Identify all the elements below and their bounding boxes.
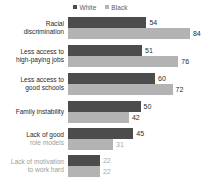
category-label-line: good schools [0,84,64,92]
category-label: Less access togood schools [0,76,64,92]
bar-row[interactable]: 22 [68,166,111,177]
bar-group: Family instability5042 [0,101,201,123]
bar-row[interactable]: 45 [68,128,144,139]
bar-value-label: 50 [144,101,152,112]
bar-value-label: 76 [181,56,189,67]
bar-row[interactable]: 84 [68,28,201,39]
bar-row[interactable]: 72 [68,84,183,95]
bar-value-label: 51 [145,45,153,56]
grouped-bar-chart: WhiteBlack Racialdiscrimination5484Less … [0,0,201,183]
category-label: Family instability [0,108,64,116]
bar-white[interactable] [68,128,133,139]
bar-value-label: 22 [103,166,111,177]
bar-black[interactable] [68,139,113,150]
bar-group: Less access togood schools6072 [0,73,201,95]
bar-value-label: 84 [193,28,201,39]
bar-value-label: 60 [158,73,166,84]
bar-black[interactable] [68,28,190,39]
category-label-line: high-paying jobs [0,56,64,64]
square-marker-icon [105,5,109,9]
category-label-line: to work hard [0,166,64,174]
category-label-line: role models [0,139,64,147]
square-marker-icon [73,5,77,9]
bar-group: Racialdiscrimination5484 [0,17,201,39]
legend-label: Black [111,4,127,11]
bar-white[interactable] [68,155,100,166]
category-label-line: Racial [0,20,64,28]
bar-white[interactable] [68,73,155,84]
bar-value-label: 45 [136,128,144,139]
chart-plot-area: Racialdiscrimination5484Less access tohi… [0,14,201,183]
bar-value-label: 42 [132,112,140,123]
bar-value-label: 31 [116,139,124,150]
category-label: Less access tohigh-paying jobs [0,48,64,64]
bar-row[interactable]: 50 [68,101,151,112]
bar-row[interactable]: 60 [68,73,166,84]
bar-value-label: 72 [176,84,184,95]
chart-legend: WhiteBlack [0,2,201,12]
bar-black[interactable] [68,84,173,95]
bar-white[interactable] [68,45,142,56]
legend-item-white[interactable]: White [73,4,96,11]
bar-row[interactable]: 51 [68,45,153,56]
bar-group: Lack of goodrole models4531 [0,128,201,150]
category-label-line: Family instability [0,108,64,116]
legend-item-black[interactable]: Black [105,4,127,11]
bar-black[interactable] [68,56,178,67]
bar-black[interactable] [68,166,100,177]
bar-group: Less access tohigh-paying jobs5176 [0,45,201,67]
bar-value-label: 22 [103,155,111,166]
bar-group: Lack of motivationto work hard2222 [0,155,201,177]
legend-label: White [79,4,96,11]
category-label-line: Lack of motivation [0,158,64,166]
category-label: Racialdiscrimination [0,20,64,36]
bar-white[interactable] [68,101,141,112]
bar-black[interactable] [68,112,129,123]
category-label: Lack of goodrole models [0,131,64,147]
bar-row[interactable]: 42 [68,112,140,123]
bar-row[interactable]: 22 [68,155,111,166]
bar-value-label: 54 [149,17,157,28]
category-label-line: Less access to [0,76,64,84]
category-label-line: discrimination [0,28,64,36]
category-label-line: Lack of good [0,131,64,139]
bar-row[interactable]: 76 [68,56,189,67]
category-label-line: Less access to [0,48,64,56]
category-label: Lack of motivationto work hard [0,158,64,174]
bar-row[interactable]: 54 [68,17,157,28]
bar-row[interactable]: 31 [68,139,124,150]
bar-white[interactable] [68,17,146,28]
